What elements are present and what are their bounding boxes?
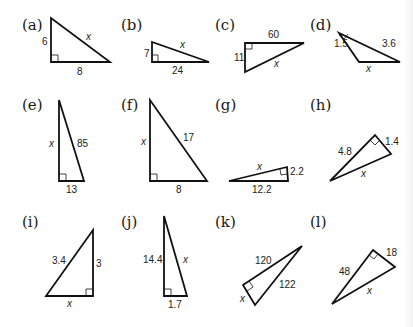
side-label: 1.5: [334, 38, 348, 49]
side-label: x: [140, 136, 147, 147]
side-label: x: [360, 168, 367, 179]
side-label: 85: [77, 138, 89, 149]
right-angle-marker: [86, 289, 93, 296]
triangle-d: (d) 1.5 3.6 x: [310, 16, 400, 74]
triangle-c: (c) 60 11 x: [215, 16, 304, 72]
side-label: x: [182, 254, 189, 265]
right-angle-marker: [370, 140, 380, 145]
side-label: 1.7: [168, 299, 182, 310]
triangle-diagram: (a) 6 8 x (b) 7 24 x (c) 60 11 x (d) 1.5…: [0, 0, 413, 327]
side-label: 122: [279, 279, 296, 290]
side-label: x: [256, 161, 263, 172]
triangle-j: (j) 14.4 x 1.7: [121, 213, 189, 310]
label-i: (i): [22, 213, 39, 231]
triangle-h: (h) 4.8 1.4 x: [310, 96, 399, 181]
right-angle-marker: [164, 289, 171, 296]
side-label: 120: [255, 255, 272, 266]
side-label: 1.4: [385, 136, 399, 147]
side-label: 60: [268, 29, 280, 40]
side-label: 17: [183, 132, 195, 143]
side-label: x: [239, 293, 246, 304]
label-a: (a): [22, 16, 43, 34]
triangle-l: (l) 48 18 x: [310, 213, 398, 304]
side-label: 2.2: [290, 166, 304, 177]
side-label: 3.6: [382, 38, 396, 49]
right-angle-marker: [51, 55, 58, 62]
side-label: x: [66, 298, 73, 309]
triangle-k-shape: [243, 246, 302, 305]
label-j: (j): [121, 213, 137, 231]
label-e: (e): [22, 96, 43, 114]
side-label: x: [48, 138, 55, 149]
triangle-i: (i) 3.4 3 x: [22, 213, 102, 309]
side-label: x: [179, 39, 186, 50]
right-angle-marker: [280, 169, 287, 175]
label-g: (g): [215, 96, 236, 114]
side-label: x: [273, 58, 280, 69]
side-label: 8: [176, 184, 182, 195]
side-label: 12.2: [252, 184, 272, 195]
side-label: 8: [77, 66, 83, 77]
label-k: (k): [215, 213, 236, 231]
side-label: x: [365, 63, 372, 74]
triangle-g: (g) x 2.2 12.2: [215, 96, 304, 195]
triangle-a-shape: [51, 18, 110, 62]
triangle-b: (b) 7 24 x: [121, 16, 209, 76]
label-b: (b): [121, 16, 142, 34]
side-label: 48: [339, 266, 351, 277]
right-angle-marker: [150, 174, 157, 181]
side-label: 7: [144, 48, 150, 59]
triangle-e: (e) x 85 13: [22, 96, 89, 195]
right-angle-marker: [59, 174, 66, 181]
side-label: 24: [172, 65, 184, 76]
triangle-f-shape: [150, 100, 207, 181]
side-label: 6: [42, 36, 48, 47]
side-label: 3: [96, 258, 102, 269]
triangle-l-shape: [332, 250, 395, 304]
triangle-a: (a) 6 8 x: [22, 16, 110, 77]
label-c: (c): [215, 16, 235, 34]
side-label: 3.4: [52, 255, 66, 266]
label-h: (h): [310, 96, 331, 114]
side-label: 13: [66, 184, 78, 195]
side-label: 4.8: [338, 146, 352, 157]
side-label: 14.4: [143, 254, 163, 265]
side-label: 18: [386, 247, 398, 258]
side-label: 11: [234, 52, 245, 63]
label-d: (d): [310, 16, 331, 34]
label-l: (l): [310, 213, 327, 231]
triangle-k: (k) 120 122 x: [215, 213, 302, 305]
label-f: (f): [121, 96, 138, 114]
triangle-f: (f) x 17 8: [121, 96, 207, 195]
side-label: x: [366, 285, 373, 296]
side-label: x: [85, 31, 92, 42]
